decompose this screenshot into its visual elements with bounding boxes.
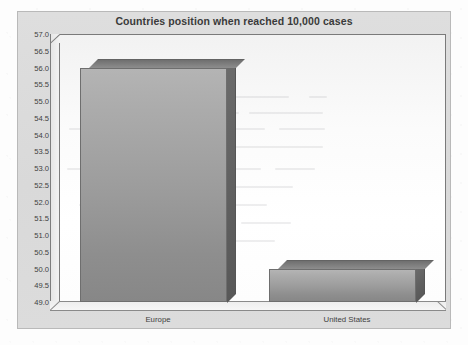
y-axis-tick-54-0: 54.0 (22, 130, 49, 139)
y-axis-tick-49-0: 49.0 (22, 298, 49, 307)
bar-europe[interactable] (80, 68, 227, 303)
y-axis-tick-55-0: 55.0 (22, 97, 49, 106)
y-axis-tick-56-0: 56.0 (22, 63, 49, 72)
scanned-page-background: Countries position when reached 10,000 c… (0, 0, 468, 345)
y-axis-tick-53-0: 53.0 (22, 164, 49, 173)
plot-area (50, 34, 446, 311)
bar-side-face (227, 59, 236, 303)
y-axis-tick-53-5: 53.5 (22, 147, 49, 156)
y-axis-tick-51-0: 51.0 (22, 231, 49, 240)
x-axis-line (50, 310, 446, 311)
y-axis-tick-50-5: 50.5 (22, 247, 49, 256)
bar-front-face (269, 269, 416, 303)
bleed-mark (309, 96, 327, 98)
bar-united-states[interactable] (269, 269, 416, 303)
x-axis-tick-labels: EuropeUnited States (50, 315, 446, 331)
plot-bottom-right-corner (435, 301, 446, 311)
y-axis-tick-54-5: 54.5 (22, 113, 49, 122)
bleed-mark (241, 222, 291, 224)
y-axis-tick-55-5: 55.5 (22, 80, 49, 89)
bar-top-face (278, 260, 434, 269)
y-axis-tick-56-5: 56.5 (22, 46, 49, 55)
bleed-mark (279, 128, 325, 130)
y-axis-tick-52-0: 52.0 (22, 197, 49, 206)
x-axis-tick-united-states: United States (324, 315, 371, 324)
chart-title: Countries position when reached 10,000 c… (18, 15, 450, 27)
y-axis-tick-50-0: 50.0 (22, 264, 49, 273)
bleed-mark (249, 112, 323, 114)
bar-front-face (80, 68, 227, 303)
y-axis-line (59, 43, 60, 302)
y-axis-tick-51-5: 51.5 (22, 214, 49, 223)
bar-top-face (89, 59, 245, 68)
y-axis-tick-labels: 57.056.556.055.555.054.554.053.553.052.5… (22, 34, 49, 311)
y-axis-tick-49-5: 49.5 (22, 281, 49, 290)
x-axis-tick-europe: Europe (145, 315, 170, 324)
bleed-mark (229, 186, 293, 188)
y-axis-tick-52-5: 52.5 (22, 180, 49, 189)
y-axis-tick-57-0: 57.0 (22, 30, 49, 39)
bleed-mark (275, 168, 315, 170)
plot-bottom-left-corner (50, 301, 61, 311)
chart-frame: Countries position when reached 10,000 c… (17, 11, 451, 329)
